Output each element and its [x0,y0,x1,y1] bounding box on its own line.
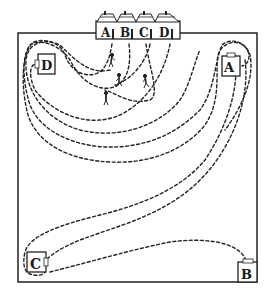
gate-label-D: D [41,58,52,73]
gate-label-C: C [30,256,41,272]
path-house-C-to-gate-C [24,44,236,275]
path-house-B-to-gate-B [48,60,248,272]
paths [23,41,251,276]
gate-label-A: A [223,60,235,75]
walker-2 [116,73,122,87]
gate-D: D [35,54,55,74]
walker-3 [143,74,149,88]
house-label-A: A [100,26,111,40]
walker-4 [104,91,108,105]
house-label-B: B [120,26,130,40]
houses: A B C D [96,11,180,40]
walkers [104,53,149,105]
gate-C: C [27,252,48,272]
gate-A: A [222,53,240,76]
gate-label-B: B [241,267,252,282]
gate-B: B [238,259,257,282]
path-loop-left-2 [24,41,251,147]
house-label-C: C [139,26,149,40]
house-label-D: D [159,26,169,40]
puzzle-diagram: A B C D D A [0,0,274,298]
